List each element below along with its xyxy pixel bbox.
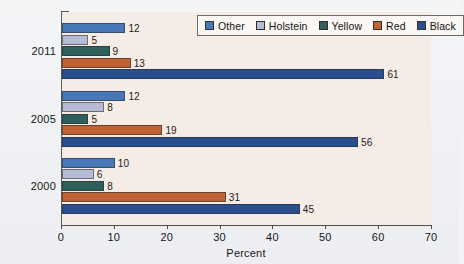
bar-value-label: 9 xyxy=(110,46,119,57)
bar-holstein-2011[interactable] xyxy=(62,35,88,45)
bar-row: 10 xyxy=(62,158,432,168)
bar-row: 5 xyxy=(62,114,432,124)
bar-value-label: 5 xyxy=(88,34,97,45)
bar-row: 5 xyxy=(62,35,432,45)
x-tick-mark xyxy=(167,225,168,229)
plot-area: 125913611285195610683145 xyxy=(61,12,431,225)
x-tick-label: 40 xyxy=(266,231,279,243)
bar-row: 61 xyxy=(62,69,432,79)
legend-swatch-icon xyxy=(417,21,426,30)
x-tick-label: 50 xyxy=(319,231,332,243)
bar-row: 8 xyxy=(62,181,432,191)
legend-item-black[interactable]: Black xyxy=(417,20,456,32)
bar-value-label: 12 xyxy=(125,90,139,101)
bar-value-label: 5 xyxy=(88,113,97,124)
bar-row: 6 xyxy=(62,169,432,179)
bar-row: 13 xyxy=(62,58,432,68)
y-tick-label-2005: 2005 xyxy=(2,113,56,125)
legend-label: Black xyxy=(430,20,456,32)
legend-swatch-icon xyxy=(205,21,214,30)
bar-row: 56 xyxy=(62,137,432,147)
bar-row: 9 xyxy=(62,46,432,56)
x-tick-mark xyxy=(61,225,62,229)
x-tick-label: 60 xyxy=(372,231,385,243)
legend-swatch-icon xyxy=(319,21,328,30)
bar-other-2005[interactable] xyxy=(62,91,125,101)
legend-swatch-icon xyxy=(373,21,382,30)
bar-value-label: 19 xyxy=(162,125,176,136)
legend-item-yellow[interactable]: Yellow xyxy=(319,20,363,32)
bar-black-2011[interactable] xyxy=(62,69,384,79)
bar-value-label: 31 xyxy=(226,192,240,203)
bar-black-2005[interactable] xyxy=(62,137,358,147)
x-tick-label: 10 xyxy=(108,231,121,243)
y-tick-label-2000: 2000 xyxy=(2,180,56,192)
x-tick-label: 0 xyxy=(58,231,64,243)
bar-holstein-2005[interactable] xyxy=(62,102,104,112)
legend-label: Holstein xyxy=(269,20,308,32)
legend-label: Other xyxy=(218,20,245,32)
bar-black-2000[interactable] xyxy=(62,204,300,214)
bar-holstein-2000[interactable] xyxy=(62,169,94,179)
x-axis-title: Percent xyxy=(61,247,431,259)
x-tick-mark xyxy=(272,225,273,229)
x-tick-label: 30 xyxy=(213,231,226,243)
bar-yellow-2005[interactable] xyxy=(62,114,88,124)
y-tick-label-2011: 2011 xyxy=(2,45,56,57)
legend-item-holstein[interactable]: Holstein xyxy=(256,20,308,32)
bar-row: 31 xyxy=(62,192,432,202)
legend-label: Red xyxy=(386,20,406,32)
bar-value-label: 45 xyxy=(300,203,314,214)
x-tick-label: 70 xyxy=(425,231,438,243)
bar-row: 8 xyxy=(62,102,432,112)
legend-item-other[interactable]: Other xyxy=(205,20,245,32)
legend-item-red[interactable]: Red xyxy=(373,20,406,32)
x-tick-mark xyxy=(325,225,326,229)
x-tick-mark xyxy=(114,225,115,229)
x-tick-mark xyxy=(378,225,379,229)
legend-label: Yellow xyxy=(332,20,363,32)
bar-yellow-2011[interactable] xyxy=(62,46,110,56)
bar-value-label: 8 xyxy=(104,102,113,113)
bar-red-2000[interactable] xyxy=(62,192,226,202)
bar-red-2005[interactable] xyxy=(62,125,162,135)
bar-value-label: 56 xyxy=(358,136,372,147)
x-tick-mark xyxy=(431,225,432,229)
legend-swatch-icon xyxy=(256,21,265,30)
bar-other-2000[interactable] xyxy=(62,158,115,168)
bar-yellow-2000[interactable] xyxy=(62,181,104,191)
bar-row: 12 xyxy=(62,91,432,101)
bar-value-label: 6 xyxy=(94,169,103,180)
bar-value-label: 13 xyxy=(131,57,145,68)
chart-legend: OtherHolsteinYellowRedBlack xyxy=(197,15,464,36)
bar-red-2011[interactable] xyxy=(62,58,131,68)
bar-value-label: 61 xyxy=(384,69,398,80)
y-axis-category-labels: 201120052000 xyxy=(0,0,56,264)
bar-row: 45 xyxy=(62,204,432,214)
bar-value-label: 10 xyxy=(115,157,129,168)
x-axis-line xyxy=(61,225,431,226)
bar-row: 19 xyxy=(62,125,432,135)
x-tick-label: 20 xyxy=(160,231,173,243)
bar-value-label: 12 xyxy=(125,23,139,34)
bar-other-2011[interactable] xyxy=(62,23,125,33)
x-tick-mark xyxy=(220,225,221,229)
bar-value-label: 8 xyxy=(104,180,113,191)
